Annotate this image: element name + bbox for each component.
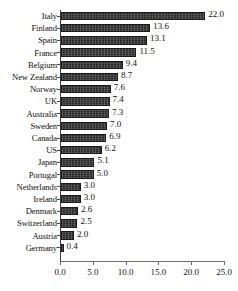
bar-value-label: 2.0 [74, 230, 88, 238]
bar-value-label: 7.4 [110, 95, 124, 103]
x-axis-tick [158, 261, 159, 265]
bar-value-label: 6.9 [106, 132, 120, 140]
bar [61, 158, 94, 166]
bar-value-label: 5.0 [94, 169, 108, 177]
bar-row: Austria2.0 [0, 230, 238, 242]
bar-value-label: 9.4 [123, 59, 137, 67]
bar [61, 48, 136, 56]
x-axis-tick [93, 261, 94, 265]
x-axis-tick-label: 20.0 [183, 267, 199, 277]
bar-wrapper [61, 183, 81, 191]
bar-row: US6.2 [0, 144, 238, 156]
x-axis-tick [60, 261, 61, 265]
y-axis-tick [57, 89, 60, 90]
bar-value-label: 2.6 [78, 205, 92, 213]
bar-value-label: 7.6 [111, 83, 125, 91]
y-axis-tick [57, 77, 60, 78]
bar-wrapper [61, 61, 123, 69]
bar-row: France11.5 [0, 47, 238, 59]
bar [61, 134, 106, 142]
bar-value-label: 8.7 [118, 71, 132, 79]
category-label: Netherlands [0, 181, 57, 193]
bar-value-label: 3.0 [81, 181, 95, 189]
bar-wrapper [61, 48, 136, 56]
category-label: Spain [0, 34, 57, 46]
bar [61, 85, 111, 93]
bar-row: Spain13.1 [0, 34, 238, 46]
bar-row: UK7.4 [0, 95, 238, 107]
bar-value-label: 2.5 [77, 217, 91, 225]
bar-row: Switzerland2.5 [0, 217, 238, 229]
bar-wrapper [61, 36, 147, 44]
y-axis-tick [57, 174, 60, 175]
x-axis-tick-label: 10.0 [118, 267, 134, 277]
bar-wrapper [61, 195, 81, 203]
bar-value-label: 11.5 [136, 47, 154, 55]
y-axis-tick [57, 125, 60, 126]
x-axis-tick-label: 0.0 [54, 267, 65, 277]
bar-wrapper [61, 122, 107, 130]
x-axis-tick-label: 5.0 [87, 267, 98, 277]
x-axis-tick [191, 261, 192, 265]
category-label: Norway [0, 83, 57, 95]
bar-row: Japan5.1 [0, 156, 238, 168]
bar [61, 109, 109, 117]
category-label: Germany [0, 242, 57, 254]
bar-row: Canada6.9 [0, 132, 238, 144]
bar-wrapper [61, 109, 109, 117]
bar-row: Ireland3.0 [0, 193, 238, 205]
bar [61, 146, 102, 154]
y-axis-tick [57, 247, 60, 248]
bar [61, 12, 205, 20]
bar-wrapper [61, 158, 94, 166]
x-axis-tick [224, 261, 225, 265]
y-axis-tick [57, 162, 60, 163]
x-axis-ticks: 0.05.010.015.020.025.0 [0, 261, 238, 291]
bar-wrapper [61, 24, 150, 32]
bar-row: Portugal5.0 [0, 169, 238, 181]
bar-value-label: 13.6 [150, 22, 169, 30]
bar [61, 231, 74, 239]
bar [61, 36, 147, 44]
category-label: UK [0, 95, 57, 107]
x-axis-tick [126, 261, 127, 265]
category-label: Portugal [0, 169, 57, 181]
bar [61, 97, 110, 105]
category-label: Denmark [0, 205, 57, 217]
bar-value-label: 5.1 [94, 156, 108, 164]
bar-value-label: 13.1 [147, 34, 166, 42]
bar [61, 24, 150, 32]
bar-wrapper [61, 73, 118, 81]
category-label: Japan [0, 156, 57, 168]
category-label: Ireland [0, 193, 57, 205]
category-label: New Zealand [0, 71, 57, 83]
y-axis-tick [57, 16, 60, 17]
bar-value-label: 7.3 [109, 108, 123, 116]
bar-value-label: 0.4 [64, 242, 78, 250]
category-label: France [0, 47, 57, 59]
bar-value-label: 3.0 [81, 193, 95, 201]
bar-wrapper [61, 207, 78, 215]
y-axis-tick [57, 52, 60, 53]
y-axis-tick [57, 64, 60, 65]
bar-wrapper [61, 97, 110, 105]
bar-chart: Italy22.0Finland13.6Spain13.1France11.5B… [0, 0, 238, 291]
x-axis-tick-label: 15.0 [151, 267, 167, 277]
bar-row: Denmark2.6 [0, 205, 238, 217]
bar-wrapper [61, 85, 111, 93]
bar-row: Finland13.6 [0, 22, 238, 34]
category-label: Austria [0, 230, 57, 242]
bar-wrapper [61, 231, 74, 239]
bar-row: Netherlands3.0 [0, 181, 238, 193]
y-axis-tick [57, 138, 60, 139]
bar-value-label: 22.0 [205, 10, 224, 18]
category-label: Canada [0, 132, 57, 144]
x-axis-tick-label: 25.0 [216, 267, 232, 277]
y-axis-tick [57, 199, 60, 200]
y-axis-tick [57, 211, 60, 212]
bar-value-label: 6.2 [102, 144, 116, 152]
bar-wrapper [61, 12, 205, 20]
category-label: Sweden [0, 120, 57, 132]
bar [61, 207, 78, 215]
bar-row: Italy22.0 [0, 10, 238, 22]
